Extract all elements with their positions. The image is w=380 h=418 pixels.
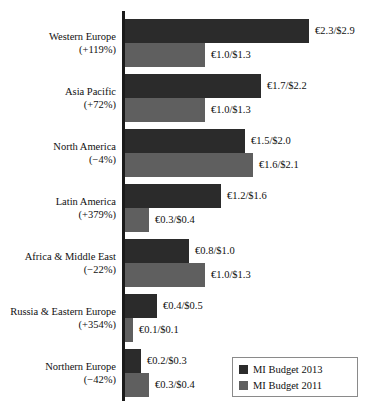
category-name: Africa & Middle East: [0, 250, 116, 263]
bar-value-2013: €0.2/$0.3: [141, 349, 187, 373]
category-change-percent: (+72%): [0, 98, 116, 111]
bar-2013: [125, 19, 309, 43]
bar-value-2011: €1.0/$1.3: [205, 43, 251, 67]
bar-2011: [125, 43, 205, 67]
category-change-percent: (−42%): [0, 373, 116, 386]
bar-value-2011: €0.3/$0.4: [149, 373, 195, 397]
category-change-percent: (+119%): [0, 43, 116, 56]
category-name: Latin America: [0, 195, 116, 208]
category-label: Western Europe(+119%): [0, 30, 116, 56]
bar-2011: [125, 208, 149, 232]
bar-2013: [125, 349, 141, 373]
category-label: Latin America(+379%): [0, 195, 116, 221]
bar-2013: [125, 129, 245, 153]
bar-value-2013: €2.3/$2.9: [309, 19, 355, 43]
bar-value-2011: €1.0/$1.3: [205, 98, 251, 122]
legend-item-2011: MI Budget 2011: [239, 377, 353, 393]
bar-2013: [125, 294, 157, 318]
bar-2013: [125, 239, 189, 263]
category-change-percent: (−22%): [0, 263, 116, 276]
chart-row: Asia Pacific(+72%)€1.7/$2.2€1.0/$1.3: [0, 74, 380, 122]
bar-value-2011: €0.3/$0.4: [149, 208, 195, 232]
bar-value-2013: €1.5/$2.0: [245, 129, 291, 153]
legend-label-2011: MI Budget 2011: [253, 380, 322, 391]
chart-row: North America(−4%)€1.5/$2.0€1.6/$2.1: [0, 129, 380, 177]
legend-swatch-2011-icon: [239, 381, 248, 390]
category-label: Russia & Eastern Europe(+354%): [0, 305, 116, 331]
bar-value-2011: €1.6/$2.1: [253, 153, 299, 177]
bar-value-2013: €0.8/$1.0: [189, 239, 235, 263]
chart-row: Western Europe(+119%)€2.3/$2.9€1.0/$1.3: [0, 19, 380, 67]
bar-value-2011: €0.1/$0.1: [133, 318, 179, 342]
category-change-percent: (+379%): [0, 208, 116, 221]
bar-2011: [125, 153, 253, 177]
category-name: Russia & Eastern Europe: [0, 305, 116, 318]
bar-value-2013: €0.4/$0.5: [157, 294, 203, 318]
chart-row: Africa & Middle East(−22%)€0.8/$1.0€1.0/…: [0, 239, 380, 287]
bar-2011: [125, 263, 205, 287]
bar-value-2013: €1.2/$1.6: [221, 184, 267, 208]
bar-value-2013: €1.7/$2.2: [261, 74, 307, 98]
bar-2013: [125, 184, 221, 208]
category-name: North America: [0, 140, 116, 153]
bar-2013: [125, 74, 261, 98]
category-name: Western Europe: [0, 30, 116, 43]
legend-swatch-2013-icon: [239, 365, 248, 374]
category-label: Africa & Middle East(−22%): [0, 250, 116, 276]
chart-legend: MI Budget 2013 MI Budget 2011: [232, 357, 358, 397]
category-change-percent: (+354%): [0, 318, 116, 331]
category-label: North America(−4%): [0, 140, 116, 166]
category-label: Northern Europe(−42%): [0, 360, 116, 386]
chart-row: Russia & Eastern Europe(+354%)€0.4/$0.5€…: [0, 294, 380, 342]
bar-2011: [125, 318, 133, 342]
category-change-percent: (−4%): [0, 153, 116, 166]
bar-2011: [125, 373, 149, 397]
horizontal-bar-chart: Western Europe(+119%)€2.3/$2.9€1.0/$1.3A…: [0, 0, 380, 418]
chart-row: Latin America(+379%)€1.2/$1.6€0.3/$0.4: [0, 184, 380, 232]
category-label: Asia Pacific(+72%): [0, 85, 116, 111]
category-name: Northern Europe: [0, 360, 116, 373]
legend-label-2013: MI Budget 2013: [253, 364, 322, 375]
legend-item-2013: MI Budget 2013: [239, 361, 353, 377]
bar-2011: [125, 98, 205, 122]
category-name: Asia Pacific: [0, 85, 116, 98]
bar-value-2011: €1.0/$1.3: [205, 263, 251, 287]
